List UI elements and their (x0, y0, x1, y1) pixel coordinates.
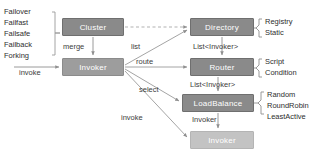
edge-label-invoke-in: invoke (19, 68, 41, 77)
option-group-router: Script Condition (265, 56, 297, 78)
cluster-strategy-item: Failover (4, 6, 32, 17)
brace-router-options (256, 59, 262, 77)
edge-label-list: list (131, 42, 140, 51)
option-item: Static (265, 27, 293, 38)
cluster-strategy-item: Failsafe (4, 28, 32, 39)
edge-label-select: select (139, 85, 159, 94)
node-invoker-main[interactable]: Invoker (62, 58, 124, 76)
option-group-directory: Registry Static (265, 16, 293, 38)
edge-label-route: route (136, 57, 153, 66)
brace-loadbalance-options (258, 92, 264, 114)
option-item: Condition (265, 67, 297, 78)
edge-invoke-out (125, 71, 187, 137)
node-cluster-label: Cluster (80, 23, 107, 32)
brace-directory-options (256, 19, 262, 37)
node-router-label: Router (209, 63, 234, 72)
option-group-loadbalance: Random RoundRobin LeastActive (267, 89, 309, 122)
edge-label-invoker-result: Invoker (192, 115, 217, 124)
node-router[interactable]: Router (190, 58, 254, 76)
edge-label-invoke-out: invoke (121, 113, 143, 122)
diagram-canvas: Failover Failfast Failsafe Failback Fork… (0, 0, 317, 157)
cluster-strategy-item: Failfast (4, 17, 32, 28)
node-invoker-main-label: Invoker (79, 63, 107, 72)
cluster-strategy-list: Failover Failfast Failsafe Failback Fork… (4, 6, 32, 61)
node-loadbalance[interactable]: LoadBalance (182, 94, 254, 112)
node-directory-label: Directory (205, 23, 239, 32)
node-invoker-result-label: Invoker (208, 136, 236, 145)
brace-cluster-strategies (52, 12, 60, 55)
option-item: RoundRobin (267, 100, 309, 111)
node-directory[interactable]: Directory (190, 18, 254, 36)
edge-label-list-invoker-1: List<Invoker> (193, 42, 238, 51)
cluster-strategy-item: Failback (4, 39, 32, 50)
cluster-strategy-item: Forking (4, 50, 32, 61)
option-item: LeastActive (267, 111, 309, 122)
option-item: Script (265, 56, 297, 67)
node-cluster[interactable]: Cluster (62, 18, 124, 36)
node-loadbalance-label: LoadBalance (194, 99, 243, 108)
edge-label-list-invoker-2: List<Invoker> (190, 80, 235, 89)
node-invoker-result[interactable]: Invoker (190, 131, 254, 149)
option-item: Random (267, 89, 309, 100)
option-item: Registry (265, 16, 293, 27)
edge-label-merge: merge (63, 42, 84, 51)
